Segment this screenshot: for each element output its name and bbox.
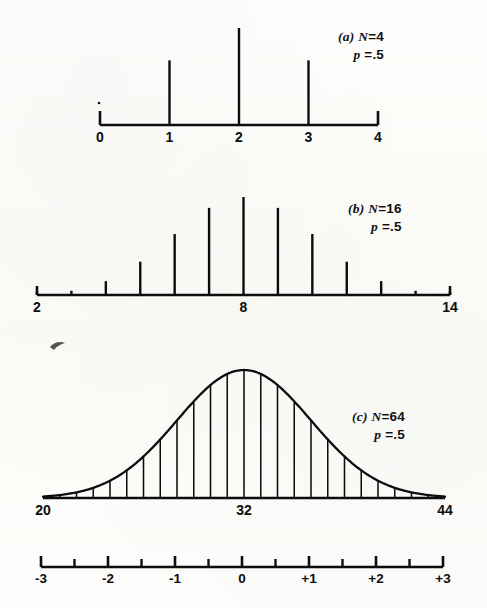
axis-tick-label: +2 bbox=[368, 571, 383, 586]
panel-a-label-line1: (a) N=4 bbox=[338, 28, 384, 46]
axis-tick-label: 20 bbox=[35, 502, 51, 518]
panel-b-label: (b) N=16 p =.5 bbox=[348, 200, 402, 236]
panel-c-n-symbol: N bbox=[372, 409, 382, 424]
panel-c-plot bbox=[0, 330, 487, 520]
panel-b-p-equals: = bbox=[382, 219, 390, 234]
panel-b-label-line1: (b) N=16 bbox=[348, 200, 402, 218]
panel-a-letter: (a) bbox=[338, 29, 354, 44]
panel-b-n-value: 16 bbox=[386, 201, 401, 216]
panel-c-label-line2: p =.5 bbox=[352, 426, 405, 444]
axis-tick-label: 0 bbox=[238, 571, 246, 586]
panel-b-n-symbol: N bbox=[368, 201, 378, 216]
panel-a-n-symbol: N bbox=[358, 29, 368, 44]
panel-c-n-value: 64 bbox=[390, 409, 405, 424]
panel-a bbox=[0, 0, 487, 160]
panel-b-letter: (b) bbox=[348, 201, 364, 216]
axis-tick-label: 1 bbox=[166, 129, 174, 145]
panel-c-p-symbol: p bbox=[374, 427, 381, 442]
panel-a-p-symbol: p bbox=[353, 47, 360, 62]
axis-tick-label: -1 bbox=[169, 571, 181, 586]
panel-b-p-value: .5 bbox=[390, 219, 402, 234]
panel-c bbox=[0, 330, 487, 520]
axis-tick-label: 32 bbox=[236, 502, 252, 518]
axis-tick-label: 3 bbox=[305, 129, 313, 145]
panel-a-spikes bbox=[98, 28, 309, 125]
panel-c-label-line1: (c) N=64 bbox=[352, 408, 405, 426]
axis-tick-label: 4 bbox=[374, 129, 382, 145]
panel-b-plot bbox=[0, 160, 487, 320]
panel-c-p-value: .5 bbox=[393, 427, 405, 442]
axis-tick-label: -3 bbox=[35, 571, 47, 586]
axis-tick-label: 14 bbox=[442, 299, 458, 315]
axis-tick-label: 2 bbox=[33, 299, 41, 315]
panel-b-label-line2: p =.5 bbox=[348, 218, 402, 236]
panel-a-label: (a) N=4 p =.5 bbox=[338, 28, 384, 64]
panel-c-n-equals: = bbox=[382, 409, 390, 424]
scan-speck bbox=[98, 102, 101, 105]
panel-a-label-line2: p =.5 bbox=[338, 46, 384, 64]
panel-a-n-value: 4 bbox=[376, 29, 384, 44]
axis-tick-label: +3 bbox=[435, 571, 450, 586]
panel-c-label: (c) N=64 p =.5 bbox=[352, 408, 405, 444]
panel-a-p-value: .5 bbox=[372, 47, 384, 62]
panel-a-plot bbox=[0, 0, 487, 160]
axis-tick-label: 2 bbox=[235, 129, 243, 145]
panel-b-p-symbol: p bbox=[371, 219, 378, 234]
axis-tick-label: 8 bbox=[240, 299, 248, 315]
panel-c-letter: (c) bbox=[352, 409, 368, 424]
axis-tick-label: +1 bbox=[301, 571, 316, 586]
z-axis-line-and-ticks bbox=[41, 556, 443, 567]
axis-tick-label: -2 bbox=[102, 571, 114, 586]
axis-tick-label: 0 bbox=[96, 129, 104, 145]
panel-b bbox=[0, 160, 487, 320]
figure-binomial-to-normal: (a) N=4 p =.5 01234 (b) N=16 p =.5 2814 bbox=[0, 0, 487, 608]
axis-tick-label: 44 bbox=[437, 502, 453, 518]
